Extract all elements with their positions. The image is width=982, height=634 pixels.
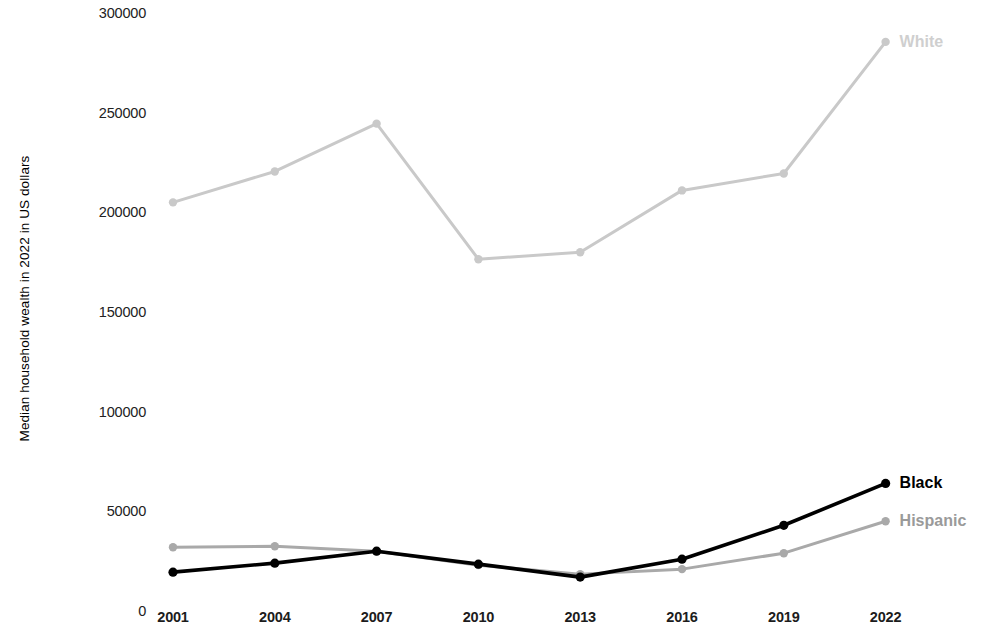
x-tick-2016: 2016: [632, 610, 732, 625]
x-tick-2004: 2004: [225, 610, 325, 625]
series-label-black: Black: [900, 475, 943, 491]
series-label-white: White: [900, 34, 944, 50]
line-chart: Median household wealth in 2022 in US do…: [0, 0, 982, 634]
series-label-hispanic: Hispanic: [900, 513, 967, 529]
x-tick-2013: 2013: [530, 610, 630, 625]
x-axis-tick-labels: 20012004200720102013201620192022: [0, 0, 982, 634]
x-tick-2001: 2001: [123, 610, 223, 625]
x-tick-2019: 2019: [734, 610, 834, 625]
x-tick-2007: 2007: [327, 610, 427, 625]
x-tick-2010: 2010: [428, 610, 528, 625]
x-tick-2022: 2022: [836, 610, 936, 625]
